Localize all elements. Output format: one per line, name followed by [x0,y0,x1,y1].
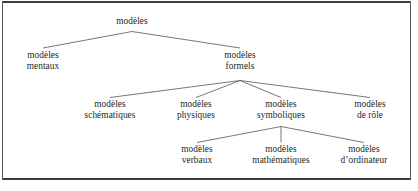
edge-root-to-mentaux [43,32,132,49]
node-modeles: modèles [116,16,148,27]
node-modeles-schematiques-line1: modèles [84,99,135,110]
node-modeles-symboliques-line2: symboliques [257,110,305,121]
node-modeles-physiques-line2: physiques [177,110,215,121]
edge-formels-to-schematiques [110,81,240,98]
node-modeles-mentaux-line1: modèles [27,50,60,61]
node-modeles-symboliques-line1: modèles [257,99,305,110]
node-modeles-verbaux-line2: verbaux [181,155,213,166]
node-modeles-mathematiques: modèles mathématiques [252,144,309,166]
edge-symboliques-to-verbaux [197,127,281,143]
node-modeles-schematiques: modèles schématiques [84,99,135,121]
edge-formels-to-de-role [240,81,370,98]
node-modeles-line1: modèles [116,16,148,27]
node-modeles-mentaux-line2: mentaux [27,61,60,72]
edge-symboliques-to-ordinateur [281,127,364,143]
node-modeles-formels-line2: formels [224,61,256,72]
node-modeles-ordinateur-line1: modèles [341,144,388,155]
node-modeles-physiques: modèles physiques [177,99,215,121]
node-modeles-verbaux-line1: modèles [181,144,213,155]
node-modeles-de-role-line2: de rôle [354,110,386,121]
edge-formels-to-symboliques [240,81,281,98]
node-modeles-de-role-line1: modèles [354,99,386,110]
node-modeles-formels-line1: modèles [224,50,256,61]
edge-formels-to-physiques [196,81,240,98]
node-modeles-formels: modèles formels [224,50,256,72]
node-modeles-mentaux: modèles mentaux [27,50,60,72]
node-modeles-de-role: modèles de rôle [354,99,386,121]
frame-right-rule [410,1,411,180]
frame-left-rule [2,1,3,180]
node-modeles-ordinateur: modèles d’ordinateur [341,144,388,166]
edge-root-to-formels [132,32,240,49]
node-modeles-schematiques-line2: schématiques [84,110,135,121]
node-modeles-physiques-line1: modèles [177,99,215,110]
figure-container: modèles modèles mentaux modèles formels … [0,0,418,191]
node-modeles-ordinateur-line2: d’ordinateur [341,155,388,166]
node-modeles-mathematiques-line2: mathématiques [252,155,309,166]
frame-bottom-rule [2,178,411,180]
node-modeles-symboliques: modèles symboliques [257,99,305,121]
frame-top-rule [2,1,411,3]
node-modeles-mathematiques-line1: modèles [252,144,309,155]
node-modeles-verbaux: modèles verbaux [181,144,213,166]
